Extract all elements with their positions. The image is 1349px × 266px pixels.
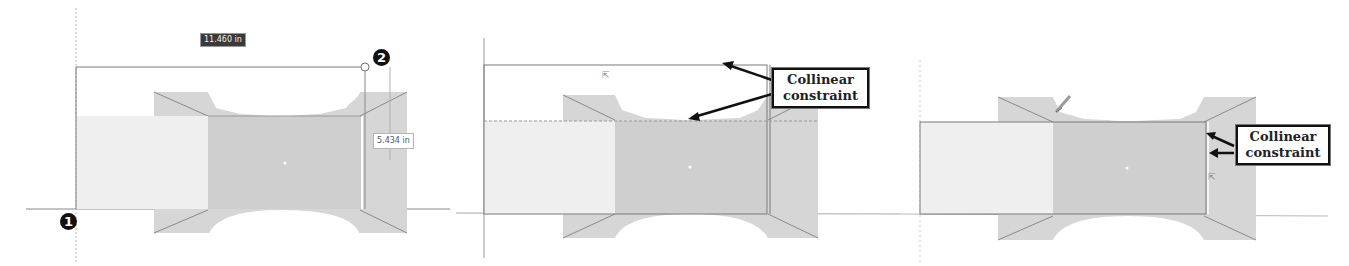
- point-marker-2: 2: [373, 49, 390, 66]
- callout-line-2: constraint: [1242, 145, 1324, 161]
- height-dimension-input[interactable]: 5.434 in: [373, 133, 414, 149]
- point-marker-1: 1: [60, 213, 77, 230]
- callout-line-1: Collinear: [778, 72, 863, 88]
- cursor-icon: ⇱: [1208, 172, 1216, 182]
- callout-line-1: Collinear: [1242, 129, 1324, 145]
- sketch-panel-step-2: ⇱ Collinear constraint: [450, 0, 900, 266]
- width-dimension-input[interactable]: 11.460 in: [200, 33, 246, 47]
- collinear-constraint-callout: Collinear constraint: [772, 68, 869, 108]
- cursor-icon: ⇱: [602, 70, 610, 80]
- sketch-panel-step-3: ⇱ Collinear constraint: [900, 0, 1349, 266]
- endpoint-handle-icon: [361, 63, 369, 71]
- callout-line-2: constraint: [778, 88, 863, 104]
- sketch-panel-step-1: 11.460 in 5.434 in 1 2: [0, 0, 450, 266]
- collinear-constraint-callout: Collinear constraint: [1236, 125, 1330, 165]
- sketch-canvas[interactable]: [450, 0, 900, 266]
